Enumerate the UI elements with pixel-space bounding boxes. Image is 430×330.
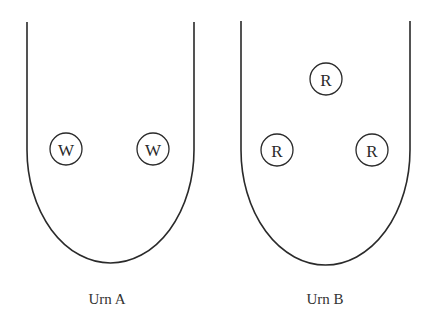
ball-w: W xyxy=(50,133,82,165)
ball-letter: R xyxy=(320,71,332,90)
urn-a: WWUrn A xyxy=(27,22,194,307)
urn-label: Urn B xyxy=(306,291,343,307)
ball-r: R xyxy=(261,134,293,166)
ball-letter: W xyxy=(58,141,75,160)
ball-w: W xyxy=(137,133,169,165)
urn-diagram: WWUrn ARRRUrn B xyxy=(0,0,430,330)
urn-label: Urn A xyxy=(88,291,125,307)
ball-letter: R xyxy=(366,142,378,161)
ball-r: R xyxy=(310,63,342,95)
ball-letter: R xyxy=(271,142,283,161)
ball-r: R xyxy=(356,134,388,166)
ball-letter: W xyxy=(145,141,162,160)
urn-b: RRRUrn B xyxy=(241,21,410,307)
